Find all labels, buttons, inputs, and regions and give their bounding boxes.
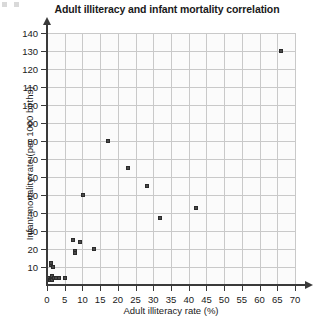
- gridline-horizontal: [47, 141, 295, 142]
- x-axis-tick: [171, 285, 172, 291]
- gridline-horizontal: [47, 87, 295, 88]
- gridline-horizontal: [47, 159, 295, 160]
- x-axis-tick: [260, 285, 261, 291]
- x-axis-tick: [295, 285, 296, 291]
- corner-artifact: [14, 2, 19, 7]
- y-axis-tick: [41, 231, 47, 232]
- plot-area: [47, 33, 295, 285]
- y-axis-tick: [41, 213, 47, 214]
- x-axis-title: Adult illiteracy rate (%): [47, 305, 295, 316]
- gridline-horizontal: [47, 69, 295, 70]
- data-point: [63, 276, 67, 280]
- x-axis-tick: [100, 285, 101, 291]
- y-axis-tick-label: 100: [0, 100, 38, 111]
- y-axis-tick: [41, 249, 47, 250]
- x-axis-tick: [242, 285, 243, 291]
- x-axis-tick: [189, 285, 190, 291]
- data-point: [194, 206, 198, 210]
- gridline-vertical: [295, 33, 296, 285]
- y-axis-tick-label: 70: [0, 154, 38, 165]
- y-axis-tick-label: 140: [0, 28, 38, 39]
- gridline-horizontal: [47, 177, 295, 178]
- y-axis-tick-label: 80: [0, 136, 38, 147]
- x-axis-tick: [82, 285, 83, 291]
- data-point: [73, 251, 77, 255]
- y-axis-tick: [41, 51, 47, 52]
- data-point: [279, 49, 283, 53]
- y-axis-tick-label: 110: [0, 82, 38, 93]
- corner-artifact: [2, 2, 7, 7]
- data-point: [92, 247, 96, 251]
- data-point: [158, 216, 162, 220]
- gridline-horizontal: [47, 51, 295, 52]
- x-axis-tick: [224, 285, 225, 291]
- x-axis-tick: [47, 285, 48, 291]
- gridline-horizontal: [47, 231, 295, 232]
- x-axis-tick: [206, 285, 207, 291]
- y-axis-tick: [41, 159, 47, 160]
- x-axis-tick: [65, 285, 66, 291]
- data-point: [145, 184, 149, 188]
- y-axis-tick: [41, 69, 47, 70]
- data-point: [71, 238, 75, 242]
- y-axis-tick: [41, 177, 47, 178]
- y-axis-arrow-icon: [43, 17, 51, 25]
- gridline-horizontal: [47, 249, 295, 250]
- x-axis-line: [46, 284, 306, 286]
- gridline-horizontal: [47, 33, 295, 34]
- y-axis-tick: [41, 141, 47, 142]
- y-axis-tick-label: 50: [0, 190, 38, 201]
- data-point: [57, 276, 61, 280]
- data-point: [81, 193, 85, 197]
- chart-title: Adult illiteracy and infant mortality co…: [0, 3, 320, 15]
- x-axis-tick: [118, 285, 119, 291]
- y-axis-tick-label: 130: [0, 46, 38, 57]
- x-axis-tick-label: 70: [280, 294, 310, 305]
- y-axis-tick-label: 20: [0, 244, 38, 255]
- gridline-horizontal: [47, 213, 295, 214]
- y-axis-tick: [41, 195, 47, 196]
- data-point: [51, 265, 55, 269]
- y-axis-tick-label: 120: [0, 64, 38, 75]
- y-axis-tick: [41, 267, 47, 268]
- y-axis-line: [46, 24, 48, 286]
- gridline-horizontal: [47, 267, 295, 268]
- y-axis-tick-label: 30: [0, 226, 38, 237]
- y-axis-tick-label: 10: [0, 262, 38, 273]
- y-axis-tick-label: 90: [0, 118, 38, 129]
- x-axis-tick: [153, 285, 154, 291]
- data-point: [106, 139, 110, 143]
- y-axis-tick-label: 40: [0, 208, 38, 219]
- x-axis-arrow-icon: [305, 281, 313, 289]
- y-axis-tick: [41, 87, 47, 88]
- gridline-horizontal: [47, 123, 295, 124]
- data-point: [126, 166, 130, 170]
- gridline-horizontal: [47, 105, 295, 106]
- x-axis-tick: [136, 285, 137, 291]
- x-axis-tick: [277, 285, 278, 291]
- data-point: [78, 240, 82, 244]
- scatter-chart: Adult illiteracy and infant mortality co…: [0, 0, 320, 318]
- y-axis-tick: [41, 105, 47, 106]
- y-axis-tick-label: 60: [0, 172, 38, 183]
- y-axis-tick: [41, 123, 47, 124]
- y-axis-tick: [41, 33, 47, 34]
